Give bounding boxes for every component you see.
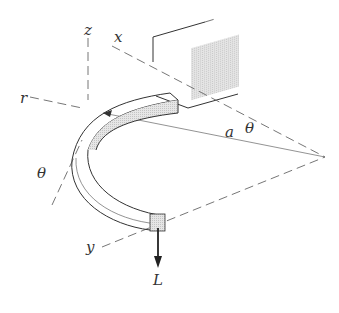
label-y: y <box>85 238 95 256</box>
label-theta-right: θ <box>245 119 254 137</box>
wall-block <box>153 19 239 108</box>
curved-beam <box>72 93 178 231</box>
load-arrow <box>154 228 162 268</box>
axes <box>30 38 325 247</box>
y-axis <box>102 157 325 247</box>
r-axis <box>30 97 82 108</box>
label-r: r <box>20 89 28 107</box>
curved-beam-diagram: z x r θ a θ y L <box>0 0 339 313</box>
label-x: x <box>114 28 123 46</box>
label-a: a <box>225 123 234 141</box>
label-L: L <box>152 271 163 289</box>
label-theta-left: θ <box>37 164 46 182</box>
label-z: z <box>83 21 92 39</box>
